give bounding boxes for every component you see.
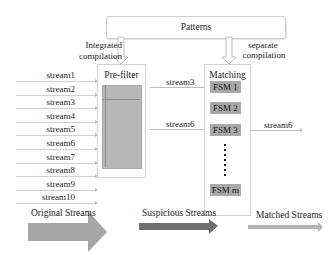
suspicious-streams-label: Suspicious Streams (142, 208, 216, 218)
matched-streams-arrow (248, 222, 323, 232)
original-streams-label: Original Streams (31, 208, 96, 218)
matched-streams-label: Matched Streams (256, 210, 322, 220)
suspicious-streams-arrow (139, 219, 218, 234)
